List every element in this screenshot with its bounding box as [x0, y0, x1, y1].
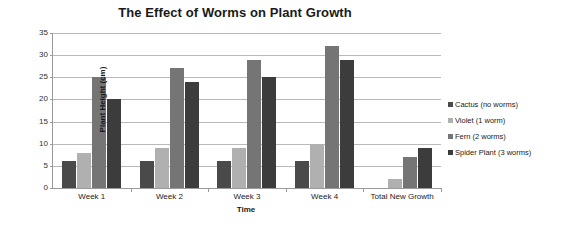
bar — [403, 157, 417, 188]
bar — [170, 68, 184, 188]
x-axis-tick-mark — [441, 188, 442, 192]
plot-area: 05101520253035 Week 1Week 2Week 3Week 4T… — [52, 33, 441, 189]
legend-swatch-icon — [448, 118, 453, 123]
x-axis-tick-mark — [286, 188, 287, 192]
y-axis-tick-mark — [50, 188, 53, 189]
bar — [155, 148, 169, 188]
bar — [388, 179, 402, 188]
bar-group — [131, 33, 209, 188]
bar-group — [208, 33, 286, 188]
bar — [217, 161, 231, 188]
bar-group — [53, 33, 131, 188]
x-axis-tick-label: Total New Growth — [371, 193, 434, 201]
bar-chart: The Effect of Worms on Plant Growth 0510… — [0, 0, 566, 234]
gridline: 0 — [53, 188, 441, 189]
bar — [325, 46, 339, 188]
y-axis-tick-label: 35 — [39, 29, 48, 37]
y-axis-tick-label: 20 — [39, 95, 48, 103]
y-axis-tick-label: 10 — [39, 140, 48, 148]
bar — [262, 77, 276, 188]
bar — [77, 153, 91, 188]
bar — [295, 161, 309, 188]
legend-label: Cactus (no worms) — [455, 100, 518, 109]
legend-swatch-icon — [448, 134, 453, 139]
x-axis-tick-label: Week 3 — [234, 193, 261, 201]
x-axis-title: Time — [52, 205, 440, 214]
legend-item[interactable]: Cactus (no worms) — [448, 96, 566, 112]
y-axis-tick-label: 5 — [44, 162, 48, 170]
y-axis-tick-label: 15 — [39, 118, 48, 126]
bar — [340, 60, 354, 188]
x-axis-tick-mark — [131, 188, 132, 192]
chart-title: The Effect of Worms on Plant Growth — [0, 5, 470, 20]
legend-swatch-icon — [448, 102, 453, 107]
x-axis-tick-mark — [208, 188, 209, 192]
y-axis-tick-label: 0 — [44, 184, 48, 192]
y-axis-tick-label: 25 — [39, 73, 48, 81]
bar — [185, 82, 199, 188]
x-axis-tick-label: Week 4 — [311, 193, 338, 201]
y-axis-title: Plant Height (cm) — [98, 45, 107, 155]
legend-item[interactable]: Spider Plant (3 worms) — [448, 144, 566, 160]
x-axis-tick-mark — [363, 188, 364, 192]
bar — [232, 148, 246, 188]
bar-group — [286, 33, 364, 188]
legend-label: Fern (2 worms) — [455, 132, 506, 141]
bar-group — [363, 33, 441, 188]
y-axis-tick-label: 30 — [39, 51, 48, 59]
x-axis-tick-label: Week 2 — [156, 193, 183, 201]
legend-item[interactable]: Violet (1 worm) — [448, 112, 566, 128]
bar — [62, 161, 76, 188]
x-axis-tick-label: Week 1 — [78, 193, 105, 201]
bar — [140, 161, 154, 188]
bar — [310, 144, 324, 188]
legend-item[interactable]: Fern (2 worms) — [448, 128, 566, 144]
legend-swatch-icon — [448, 150, 453, 155]
bar — [107, 99, 121, 188]
bar — [247, 60, 261, 188]
bar — [418, 148, 432, 188]
legend-label: Violet (1 worm) — [455, 116, 505, 125]
legend-label: Spider Plant (3 worms) — [455, 148, 531, 157]
legend: Cactus (no worms)Violet (1 worm)Fern (2 … — [448, 96, 566, 160]
